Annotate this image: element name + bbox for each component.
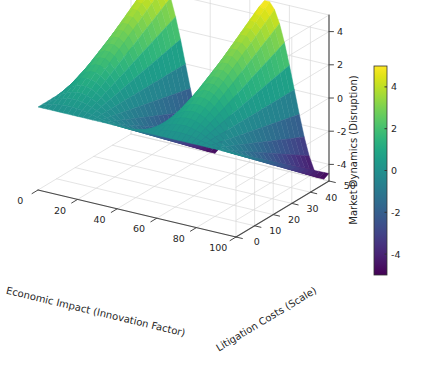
y-tick-label: 30 — [307, 203, 319, 214]
y-tick-label: 40 — [325, 192, 337, 203]
z-tick-label: 4 — [337, 26, 343, 37]
x-tick-label: 0 — [17, 195, 23, 206]
x-tick-label: 20 — [54, 205, 66, 216]
plot-canvas: 02040608010001020304050-4-2024 Economic … — [0, 0, 422, 368]
z-tick-label: -2 — [337, 126, 346, 137]
colorbar-tick-label: 0 — [391, 165, 397, 176]
x-tick-label: 80 — [173, 233, 185, 244]
z-axis-label: Market Dynamics (Disruption) — [348, 75, 359, 225]
y-tick-label: 0 — [254, 236, 260, 247]
figure-3d-surface-plot: 02040608010001020304050-4-2024 Economic … — [0, 0, 422, 368]
y-tick-label: 10 — [269, 225, 281, 236]
x-tick-label: 40 — [93, 214, 105, 225]
z-tick-label: 0 — [337, 93, 343, 104]
x-tick-label: 60 — [133, 223, 145, 234]
z-tick-label: -4 — [337, 159, 346, 170]
colorbar-tick-label: 4 — [391, 81, 397, 92]
colorbar-tick-label: -4 — [391, 249, 400, 260]
colorbar-tick-label: -2 — [391, 207, 400, 218]
y-tick-label: 20 — [288, 214, 300, 225]
z-tick-label: 2 — [337, 59, 343, 70]
colorbar-tick-label: 2 — [391, 123, 397, 134]
x-tick-label: 100 — [209, 242, 227, 253]
